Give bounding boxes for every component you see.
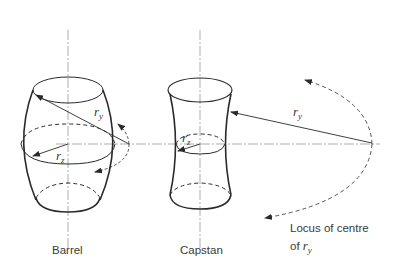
- capstan-shape: [168, 78, 372, 218]
- capstan-bottom-front: [170, 195, 231, 209]
- barrel-left-side: [24, 90, 36, 200]
- centre-lines: [56, 30, 380, 250]
- capstan-right-side: [226, 94, 232, 195]
- barrel-rz-label: rz: [56, 148, 65, 164]
- capstan-ry-label: ry: [293, 104, 302, 120]
- locus-curve-bottom: [265, 144, 372, 218]
- capstan-bottom-back: [170, 183, 231, 195]
- barrel-ry-label: ry: [94, 104, 103, 120]
- capstan-caption: Capstan: [180, 244, 223, 256]
- capstan-rz-sub: z: [187, 137, 191, 147]
- capstan-rz-label: rz: [182, 130, 191, 146]
- locus-caption-line1: Locus of centre: [290, 222, 369, 234]
- locus-curve-top: [305, 80, 372, 144]
- capstan-left-side: [170, 94, 176, 195]
- capstan-ry-sub: y: [298, 111, 302, 121]
- barrel-shape: [21, 77, 129, 212]
- locus-caption-line2: of ry: [290, 238, 312, 254]
- locus-caption-sub: y: [308, 245, 312, 255]
- barrel-caption: Barrel: [52, 244, 83, 256]
- locus-caption-prefix: of: [290, 240, 303, 252]
- barrel-ry-sub: y: [99, 111, 103, 121]
- barrel-rz-sub: z: [61, 155, 65, 165]
